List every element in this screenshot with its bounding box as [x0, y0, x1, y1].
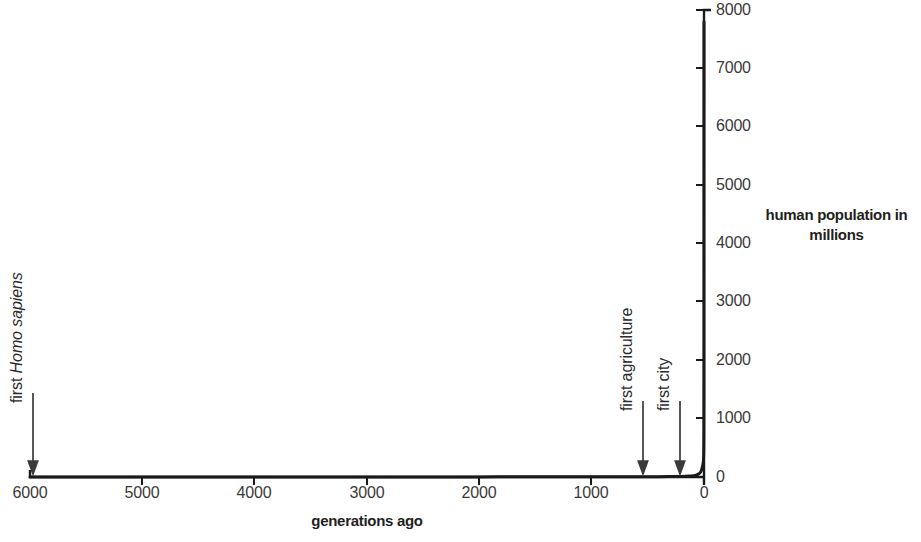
ytick-label-3000: 3000 — [716, 292, 751, 310]
arrow-head-first-city — [675, 461, 684, 474]
annotation-arrows — [28, 393, 684, 474]
population-curve — [30, 22, 704, 477]
ytick-label-4000: 4000 — [716, 234, 751, 252]
annotation-label-first-agriculture: first agriculture — [618, 308, 635, 411]
annotation-first-city: first city — [655, 358, 673, 411]
xtick-label-4000: 4000 — [237, 484, 272, 502]
annotation-first-agriculture: first agriculture — [618, 308, 636, 411]
annotation-first-homo-sapiens: first Homo sapiens — [8, 272, 26, 403]
annotation-prefix-homo-sapiens: first — [8, 373, 25, 403]
ytick-label-0: 0 — [716, 468, 725, 486]
xtick-label-0: 0 — [700, 484, 709, 502]
y-axis-title-line2: millions — [809, 226, 863, 243]
ytick-label-1000: 1000 — [716, 409, 751, 427]
annotation-scientific-name-homo-sapiens: Homo sapiens — [8, 272, 25, 373]
ytick-label-6000: 6000 — [716, 117, 751, 135]
ytick-label-5000: 5000 — [716, 176, 751, 194]
ytick-label-8000: 8000 — [716, 1, 751, 19]
ytick-label-2000: 2000 — [716, 351, 751, 369]
xtick-label-1000: 1000 — [574, 484, 609, 502]
plot-area — [0, 0, 921, 542]
x-axis-title: generations ago — [311, 512, 422, 529]
xtick-label-3000: 3000 — [350, 484, 385, 502]
annotation-label-first-city: first city — [655, 358, 672, 411]
y-axis-title: human population in millions — [752, 205, 921, 246]
y-axis-title-line1: human population in — [766, 206, 908, 223]
xtick-label-6000: 6000 — [13, 484, 48, 502]
xtick-label-2000: 2000 — [462, 484, 497, 502]
xtick-label-5000: 5000 — [125, 484, 160, 502]
population-growth-chart: 6000 5000 4000 3000 2000 1000 0 0 1000 2… — [0, 0, 921, 542]
ytick-label-7000: 7000 — [716, 59, 751, 77]
arrow-head-first-agriculture — [638, 461, 647, 474]
